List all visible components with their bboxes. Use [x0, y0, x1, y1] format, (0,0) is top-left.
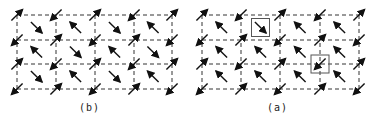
cell-spin-arrow-icon [255, 46, 266, 57]
cell-spin-arrow-icon [147, 46, 158, 57]
cell-spin-arrow-icon [294, 22, 305, 33]
cell-spin-arrow-icon [147, 71, 158, 82]
cell-spin-arrow-icon [334, 22, 345, 33]
cell-spin-arrow-icon [31, 71, 42, 82]
cell-spin-arrow-icon [31, 22, 42, 33]
cell-spin-arrow-icon [70, 46, 81, 57]
cell-spin-arrow-icon [255, 22, 266, 33]
cell-spin-arrow-icon [294, 46, 305, 57]
cell-spin-arrow-icon [294, 71, 305, 82]
cell-spin-arrow-icon [216, 46, 227, 57]
cell-spin-arrow-icon [334, 46, 345, 57]
cell-spin-arrow-icon [147, 22, 158, 33]
cell-spin-arrow-icon [31, 46, 42, 57]
cell-spin-arrow-icon [216, 22, 227, 33]
cell-spin-arrow-icon [334, 71, 345, 82]
cell-spin-arrow-icon [70, 71, 81, 82]
cell-spin-arrow-icon [109, 46, 120, 57]
cell-spin-arrow-icon [70, 22, 81, 33]
cell-spin-arrow-icon [109, 71, 120, 82]
spin-lattice-diagram [0, 0, 376, 123]
cell-spin-arrow-icon [216, 71, 227, 82]
cell-spin-arrow-icon [255, 71, 266, 82]
cell-spin-arrow-icon [109, 22, 120, 33]
panel-label-a: (a) [267, 102, 288, 113]
panel-label-b: (b) [79, 102, 100, 113]
